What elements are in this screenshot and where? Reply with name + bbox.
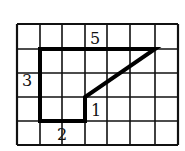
side-label-5: 5 (90, 29, 100, 48)
side-label-3: 3 (22, 71, 32, 90)
grid-diagram: 5312 (0, 0, 185, 151)
side-label-2: 2 (57, 125, 67, 144)
side-label-1: 1 (91, 101, 101, 120)
